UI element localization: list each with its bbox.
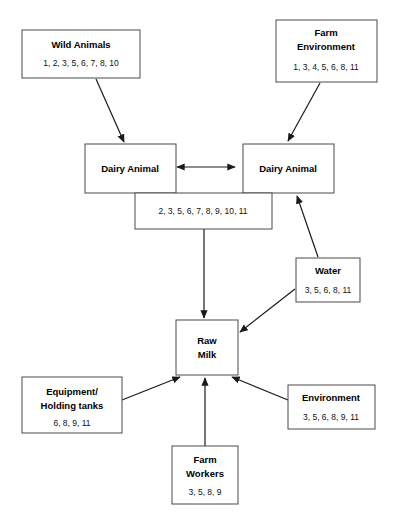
node-water[interactable]: Water 3, 5, 6, 8, 11 xyxy=(296,258,360,302)
connector-layer xyxy=(96,79,320,446)
node-farm-environment[interactable]: Farm Environment 1, 3, 4, 5, 6, 8, 11 xyxy=(276,20,377,82)
node-farm-workers-label-line2: Workers xyxy=(186,468,224,479)
node-dairy-shared-numbers[interactable]: 2, 3, 5, 6, 7, 8, 9, 10, 11 xyxy=(135,193,272,229)
node-farm-workers[interactable]: Farm Workers 3, 5, 8, 9 xyxy=(172,446,238,504)
diagram-canvas: Wild Animals 1, 2, 3, 5, 6, 7, 8, 10 Far… xyxy=(0,0,396,524)
node-wild-animals[interactable]: Wild Animals 1, 2, 3, 5, 6, 7, 8, 10 xyxy=(22,30,140,78)
node-farm-workers-label-line1: Farm xyxy=(193,454,216,465)
node-farm-environment-numbers: 1, 3, 4, 5, 6, 8, 11 xyxy=(293,62,359,72)
node-wild-animals-box xyxy=(22,30,140,78)
edge-wild-animals-to-dairy-animal-left xyxy=(96,79,124,142)
node-raw-milk-label-line2: Milk xyxy=(198,349,217,360)
node-environment[interactable]: Environment 3, 5, 6, 8, 9, 11 xyxy=(288,385,375,429)
edge-water-to-raw-milk xyxy=(240,289,295,332)
node-equipment-holding-tanks[interactable]: Equipment/ Holding tanks 6, 8, 9, 11 xyxy=(22,377,122,433)
node-farm-environment-label-line1: Farm xyxy=(314,27,337,38)
node-dairy-animal-left-label: Dairy Animal xyxy=(101,163,159,174)
node-water-label: Water xyxy=(315,265,341,276)
node-environment-numbers: 3, 5, 6, 8, 9, 11 xyxy=(303,412,359,422)
flow-diagram-svg: Wild Animals 1, 2, 3, 5, 6, 7, 8, 10 Far… xyxy=(0,0,396,524)
node-equipment-holding-tanks-numbers: 6, 8, 9, 11 xyxy=(53,418,90,428)
node-equipment-holding-tanks-label-line1: Equipment/ xyxy=(46,386,98,397)
node-water-numbers: 3, 5, 6, 8, 11 xyxy=(305,285,352,295)
node-wild-animals-label: Wild Animals xyxy=(51,39,110,50)
node-equipment-holding-tanks-label-line2: Holding tanks xyxy=(41,400,104,411)
edge-water-to-dairy-animal-right xyxy=(297,196,318,257)
edge-equipment-to-raw-milk xyxy=(122,377,180,400)
node-farm-workers-numbers: 3, 5, 8, 9 xyxy=(188,487,221,497)
node-wild-animals-numbers: 1, 2, 3, 5, 6, 7, 8, 10 xyxy=(43,58,119,68)
edge-environment-to-raw-milk xyxy=(232,377,288,400)
node-farm-environment-label-line2: Environment xyxy=(297,41,356,52)
node-dairy-animal-right-label: Dairy Animal xyxy=(259,163,317,174)
node-raw-milk[interactable]: Raw Milk xyxy=(176,320,238,375)
node-dairy-animal-right[interactable]: Dairy Animal xyxy=(243,144,334,193)
node-raw-milk-label-line1: Raw xyxy=(197,335,217,346)
node-environment-label: Environment xyxy=(302,392,361,403)
node-dairy-animal-left[interactable]: Dairy Animal xyxy=(85,144,176,193)
node-dairy-shared-numbers-value: 2, 3, 5, 6, 7, 8, 9, 10, 11 xyxy=(158,206,247,216)
edge-farm-environment-to-dairy-animal-right xyxy=(288,83,320,141)
node-raw-milk-box xyxy=(176,320,238,375)
